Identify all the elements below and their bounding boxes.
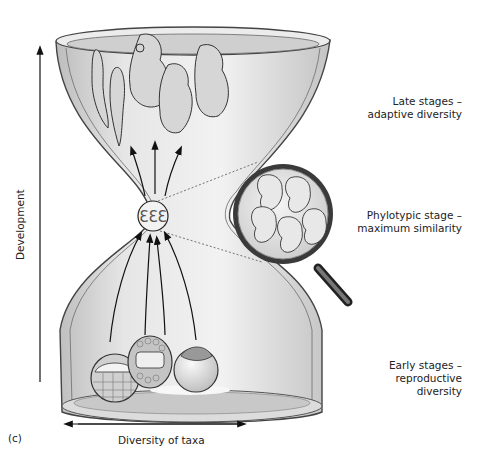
bird-egg-blastodisc bbox=[174, 347, 218, 392]
phylotypic-stage-circle: ƐƐƐ bbox=[138, 201, 168, 231]
svg-text:ƐƐƐ: ƐƐƐ bbox=[139, 208, 167, 226]
amphioxus-blastula bbox=[128, 336, 172, 388]
bird-embryo bbox=[159, 64, 192, 133]
late-stages-title: Late stages – bbox=[360, 95, 462, 108]
panel-label: (c) bbox=[8, 432, 22, 445]
development-axis-label: Development bbox=[14, 189, 26, 260]
diversity-axis-label: Diversity of taxa bbox=[118, 434, 205, 447]
late-stages-subtitle: adaptive diversity bbox=[360, 108, 462, 121]
early-stages-label: Early stages – reproductive diversity bbox=[352, 359, 462, 398]
late-stages-label: Late stages – adaptive diversity bbox=[360, 95, 462, 121]
phylotypic-stage-label: Phylotypic stage – maximum similarity bbox=[352, 209, 462, 235]
phylotypic-stage-subtitle: maximum similarity bbox=[352, 222, 462, 235]
early-stages-subtitle: reproductive diversity bbox=[352, 372, 462, 398]
phylotypic-stage-title: Phylotypic stage – bbox=[352, 209, 462, 222]
early-stages-title: Early stages – bbox=[352, 359, 462, 372]
